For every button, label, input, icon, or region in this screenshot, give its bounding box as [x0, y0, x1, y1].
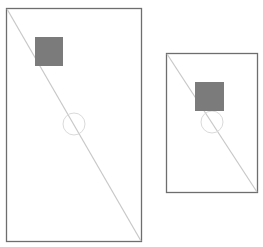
small-frame-group — [167, 54, 258, 193]
small-frame-diagonal — [167, 54, 257, 192]
large-frame-square — [35, 37, 63, 66]
diagram-canvas — [0, 0, 263, 247]
large-frame-group — [7, 9, 142, 242]
small-frame-square — [195, 82, 224, 111]
large-frame-diagonal — [7, 9, 141, 241]
